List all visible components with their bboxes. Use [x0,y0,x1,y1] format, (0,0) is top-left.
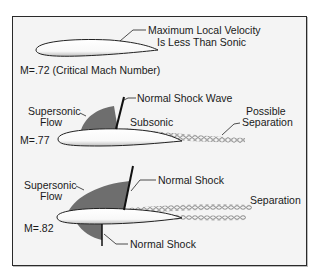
leader-shock-wave [124,98,136,100]
mach-label-077: M=.77 [20,134,50,146]
panel-mach-077: Normal Shock Wave Supersonic Flow Subson… [20,92,293,146]
airfoil-1 [36,39,158,56]
label-normal-shock-lower: Normal Shock [130,238,197,250]
leader-max-velocity [120,30,146,41]
label-separation-2: Separation [242,116,293,128]
mach-label-072: M=.72 (Critical Mach Number) [20,64,160,76]
leader-supersonic-3 [76,186,84,190]
supersonic-region-lower-3 [76,222,102,240]
label-normal-shock-wave: Normal Shock Wave [137,92,232,104]
label-subsonic: Subsonic [130,116,173,128]
supersonic-region-upper-3 [68,181,130,212]
label-max-velocity-2: Is Less Than Sonic [157,36,246,48]
mach-label-082: M=.82 [24,222,54,234]
label-supersonic-2-line2: Flow [40,116,63,128]
normal-shock-2 [116,97,124,129]
leader-separation-2 [222,123,240,135]
airfoil-diagram: Maximum Local Velocity Is Less Than Soni… [0,0,320,274]
label-supersonic-3-line2: Flow [40,190,63,202]
label-max-velocity-1: Maximum Local Velocity [148,24,261,36]
label-separation-3: Separation [250,194,301,206]
airfoil-2 [58,129,182,146]
label-normal-shock-upper: Normal Shock [158,174,225,186]
leader-normal-shock-upper [131,180,156,191]
supersonic-region-2 [81,106,118,130]
leader-normal-shock-lower [104,234,128,244]
panel-mach-082: Normal Shock Supersonic Flow Separation … [24,166,301,250]
panel-critical-mach: Maximum Local Velocity Is Less Than Soni… [20,24,261,76]
leader-supersonic-2 [80,113,86,116]
